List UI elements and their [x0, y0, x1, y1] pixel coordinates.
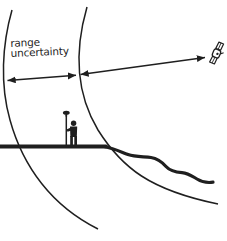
satellite-range-arrow-icon: [81, 58, 206, 75]
uncertainty-span-arrow-icon: [8, 75, 77, 80]
terrain-line: [104, 147, 213, 183]
inner-range-arc: [79, 7, 218, 204]
range-uncertainty-label: range uncertainty: [10, 35, 69, 58]
gps-antenna-icon: [63, 111, 70, 115]
surveyor-with-gps-pole-icon: [63, 111, 77, 147]
surveyor-silhouette: [67, 121, 78, 147]
label-line-2: uncertainty: [10, 45, 69, 58]
range-uncertainty-diagram: range uncertainty: [0, 0, 227, 241]
satellite-icon: [209, 41, 226, 65]
